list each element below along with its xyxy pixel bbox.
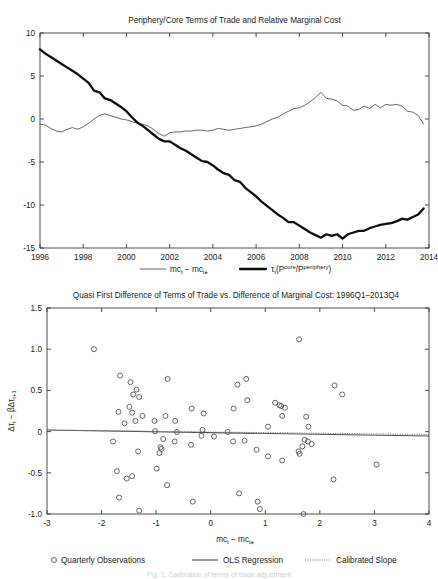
- scatter-point: [332, 383, 337, 388]
- x-tick-label: -2: [98, 519, 106, 528]
- scatter-point: [244, 376, 249, 381]
- x-tick-label: 2004: [204, 253, 223, 262]
- x-tick-label: 2002: [161, 253, 180, 262]
- plot-frame: [47, 308, 429, 514]
- scatter-point: [124, 476, 129, 481]
- y-tick-label: 10: [26, 29, 36, 38]
- x-tick-label: 1996: [31, 253, 50, 262]
- scatter-point: [140, 413, 145, 418]
- scatter-point: [300, 444, 305, 449]
- x-tick-label: 0: [208, 519, 213, 528]
- y-axis-label: Δτt − βΔτt+1: [7, 390, 17, 432]
- y-tick-label: -5: [28, 158, 36, 167]
- legend-label-ols-regression: OLS Regression: [223, 556, 284, 565]
- scatter-point: [266, 454, 271, 459]
- scatter-point: [154, 466, 159, 471]
- x-tick-label: 4: [427, 519, 432, 528]
- scatter-point: [152, 418, 157, 423]
- y-tick-label: 1.5: [31, 304, 43, 313]
- scatter-point: [231, 439, 236, 444]
- scatter-point: [130, 474, 135, 479]
- y-tick-label: 0: [37, 428, 42, 437]
- x-tick-label: 2012: [377, 253, 396, 262]
- x-tick-label: -1: [153, 519, 161, 528]
- series-line-terms-of-trade: [40, 49, 424, 238]
- scatter-point: [118, 373, 123, 378]
- legend-label-quarterly-observations: Quarterly Observations: [61, 556, 145, 565]
- chart-title-bottom: Quasi First Difference of Terms of Trade…: [73, 291, 400, 300]
- scatter-point: [130, 410, 135, 415]
- y-tick-label: -0.5: [28, 469, 43, 478]
- scatter-point: [266, 424, 271, 429]
- scatter-point: [136, 449, 141, 454]
- scatter-point: [201, 411, 206, 416]
- scatter-point: [137, 394, 142, 399]
- scatter-point: [163, 413, 168, 418]
- scatter-point: [257, 507, 262, 512]
- scatter-point: [165, 483, 170, 488]
- y-axis-label-group: Δτt − βΔτt+1: [7, 390, 17, 432]
- x-axis-label: mct − mct*: [216, 535, 255, 549]
- scatter-point: [235, 382, 240, 387]
- chart-title-top: Periphery/Core Terms of Trade and Relati…: [128, 16, 341, 25]
- y-tick-label: 5: [30, 72, 35, 81]
- scatter-point: [133, 418, 138, 423]
- scatter-point: [111, 439, 116, 444]
- scatter-point: [161, 437, 166, 442]
- line-chart-svg: Periphery/Core Terms of Trade and Relati…: [0, 0, 438, 285]
- scatter-point: [254, 447, 259, 452]
- scatter-point: [211, 434, 216, 439]
- scatter-point: [116, 409, 121, 414]
- scatter-point: [309, 441, 314, 446]
- scatter-point: [137, 508, 142, 513]
- x-tick-label: 3: [372, 519, 377, 528]
- legend-label-calibrated-slope: Calibrated Slope: [336, 556, 397, 565]
- scatter-point: [255, 499, 260, 504]
- scatter-point: [122, 421, 127, 426]
- scatter-point: [91, 347, 96, 352]
- x-tick-label: -3: [43, 519, 51, 528]
- scatter-point: [245, 398, 250, 403]
- x-tick-label: 2010: [333, 253, 352, 262]
- scatter-point: [304, 414, 309, 419]
- legend-label-marginal-cost: mct − mct*: [170, 265, 209, 279]
- scatter-point: [172, 439, 177, 444]
- y-tick-label: -10: [23, 201, 35, 210]
- x-tick-label: 1: [263, 519, 268, 528]
- scatter-point: [237, 491, 242, 496]
- y-tick-label: 0: [30, 115, 35, 124]
- scatter-point: [165, 376, 170, 381]
- scatter-point: [280, 458, 285, 463]
- scatter-point: [114, 469, 119, 474]
- scatter-point: [231, 406, 236, 411]
- scatter-point: [331, 477, 336, 482]
- scatter-point: [189, 442, 194, 447]
- scatter-point: [242, 438, 247, 443]
- x-tick-label: 2000: [117, 253, 136, 262]
- plot-frame: [40, 33, 429, 248]
- y-tick-label: 0.5: [31, 386, 43, 395]
- x-tick-label: 1998: [74, 253, 93, 262]
- x-tick-label: 2008: [290, 253, 309, 262]
- scatter-point: [128, 380, 133, 385]
- legend-label-terms-of-trade: τt(Pcore/Pperiphery): [271, 264, 332, 275]
- y-tick-label: -15: [23, 244, 35, 253]
- scatter-point: [127, 404, 132, 409]
- chart-legend-bottom: Quarterly ObservationsOLS RegressionCali…: [52, 556, 397, 565]
- ols-regression-line: [47, 430, 429, 436]
- scatter-point: [190, 499, 195, 504]
- figure-caption: Fig. 1. Calibration of terms of trade ad…: [147, 571, 291, 579]
- scatter-point: [134, 387, 139, 392]
- scatter-point: [200, 427, 205, 432]
- figure-container: Periphery/Core Terms of Trade and Relati…: [0, 0, 438, 579]
- scatter-point: [189, 406, 194, 411]
- scatter-point: [131, 392, 136, 397]
- x-tick-label: 2014: [420, 253, 438, 262]
- scatter-point: [374, 462, 379, 467]
- scatter-point: [297, 337, 302, 342]
- scatter-point: [199, 433, 204, 438]
- scatter-point: [280, 413, 285, 418]
- chart-panel-quasi-first-difference: Quasi First Difference of Terms of Trade…: [0, 285, 438, 579]
- scatter-chart-svg: Quasi First Difference of Terms of Trade…: [0, 285, 438, 579]
- scatter-point: [306, 424, 311, 429]
